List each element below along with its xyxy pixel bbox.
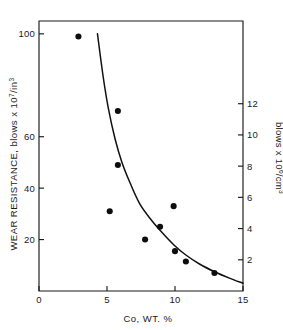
plot-frame [39, 21, 243, 291]
x-tick-label-10: 10 [170, 294, 181, 305]
y-right-tick-label-10: 10 [247, 129, 258, 140]
fitted-curve [97, 34, 243, 283]
y-right-tick-label-12: 12 [247, 98, 258, 109]
axis-titles: Co, WT. %WEAR RESISTANCE, blows x 107/in… [8, 77, 283, 324]
data-point-8 [183, 258, 189, 264]
data-point-9 [211, 270, 217, 276]
data-point-3 [107, 208, 113, 214]
data-point-6 [142, 237, 148, 243]
wear-resistance-chart: 05101520406010024681012 Co, WT. %WEAR RE… [0, 0, 283, 330]
x-axis-title: Co, WT. % [124, 313, 173, 324]
data-points [75, 33, 217, 276]
x-tick-label-5: 5 [104, 294, 109, 305]
y-tick-label-40: 40 [24, 183, 35, 194]
data-point-7 [172, 248, 178, 254]
y-tick-label-20: 20 [24, 234, 35, 245]
chart-canvas: 05101520406010024681012 Co, WT. %WEAR RE… [0, 0, 283, 330]
y-right-tick-label-2: 2 [247, 254, 252, 265]
tick-labels: 05101520406010024681012 [19, 28, 258, 305]
y-axis-left-title: WEAR RESISTANCE, blows x 107/in3 [8, 77, 19, 250]
tick-marks [39, 34, 243, 291]
y-tick-label-60: 60 [24, 131, 35, 142]
x-tick-label-15: 15 [238, 294, 249, 305]
y-right-tick-label-8: 8 [247, 161, 252, 172]
data-point-0 [75, 33, 81, 39]
y-right-tick-label-6: 6 [247, 192, 252, 203]
data-point-1 [115, 108, 121, 114]
x-tick-label-0: 0 [36, 294, 41, 305]
y-tick-label-100: 100 [19, 28, 35, 39]
y-axis-right-title: blows x 106/cm3 [274, 122, 283, 194]
data-point-2 [115, 162, 121, 168]
axes-frame [39, 21, 243, 291]
fit-curve-path [97, 34, 243, 283]
y-right-tick-label-4: 4 [247, 223, 252, 234]
data-point-4 [171, 203, 177, 209]
data-point-5 [157, 224, 163, 230]
